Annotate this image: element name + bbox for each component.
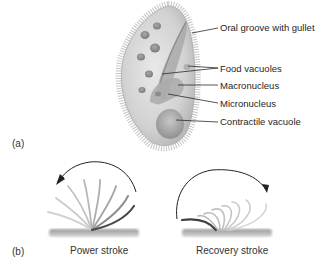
micronucleus [155,92,161,97]
callout-oral-groove: Oral groove with gullet [220,23,315,33]
contractile-vacuole [156,109,184,139]
callout-contractile-vacuole: Contractile vacuole [220,117,301,127]
caption-recovery-stroke: Recovery stroke [196,246,268,256]
panel-label-a: (a) [12,139,24,149]
panel-label-b: (b) [12,247,24,257]
figure-artwork [0,0,322,265]
paramecium-illustration [118,4,218,148]
callout-food-vacuoles: Food vacuoles [220,64,282,74]
callout-micronucleus: Micronucleus [220,99,276,109]
power-stroke-illustration [48,162,139,237]
recovery-stroke-illustration [177,170,272,237]
callout-macronucleus: Macronucleus [220,81,279,91]
caption-power-stroke: Power stroke [70,246,128,256]
